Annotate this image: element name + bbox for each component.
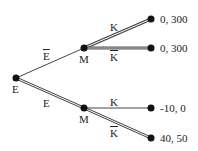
leaf-node-2 [148,45,155,52]
payoff-2: 0, 300 [160,43,188,54]
node-label-root: E [12,84,19,95]
node-label-m-upper: M [79,54,89,65]
leaf-node-3 [148,105,155,112]
edge-root-upper [16,48,84,78]
node-m-upper [81,45,88,52]
payoff-4: 40, 50 [160,133,188,144]
edge-label-kbar-lower: K [110,128,118,139]
node-root [13,75,20,82]
edge-label-ebar: E [43,51,50,62]
edge-root-lower [16,78,84,108]
edge-label-e: E [43,98,50,109]
node-label-m-lower: M [79,114,89,125]
edge-label-kbar-upper: K [110,52,118,63]
leaf-node-1 [148,16,155,23]
edge-label-k-lower: K [110,97,118,108]
payoff-3: -10, 0 [160,103,186,114]
node-m-lower [81,105,88,112]
leaf-node-4 [148,135,155,142]
edge-label-k-upper: K [110,22,118,33]
payoff-1: 0, 300 [160,14,188,25]
